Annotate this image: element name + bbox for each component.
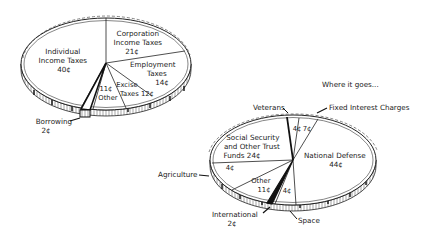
label-fixed-interest-charges: Fixed Interest Charges xyxy=(329,103,410,112)
income-pie: Individual Income Taxes 40¢ Corporation … xyxy=(21,16,191,135)
budget-pie-charts: Individual Income Taxes 40¢ Corporation … xyxy=(0,0,431,241)
label-agriculture-value: 4¢ xyxy=(226,164,235,172)
where-it-goes-heading: Where it goes... xyxy=(322,80,379,89)
label-space: Space xyxy=(298,216,320,225)
label-international: International 2¢ xyxy=(212,210,260,228)
spending-pie: Where it goes... xyxy=(158,80,410,228)
label-space-value: 4¢ xyxy=(283,187,292,195)
label-veterans: Veterans xyxy=(253,103,285,112)
label-fixed-interest-value: 7¢ xyxy=(303,125,312,133)
label-borrowing: Borrowing 2¢ xyxy=(36,117,75,135)
label-veterans-value: 4¢ xyxy=(293,125,302,133)
label-agriculture: Agriculture xyxy=(158,170,198,179)
